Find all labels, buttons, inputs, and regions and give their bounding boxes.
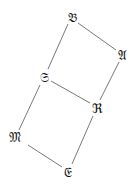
edge-s-m — [19, 85, 40, 130]
node-m: 𝔐 — [9, 131, 21, 144]
node-b: 𝔅 — [68, 11, 77, 24]
hasse-diagram-edges — [0, 0, 134, 188]
edge-m-e — [28, 145, 62, 167]
edge-a-r — [100, 62, 119, 100]
node-s: 𝔖 — [40, 71, 49, 84]
edge-s-r — [51, 81, 90, 103]
edge-b-a — [78, 23, 116, 50]
node-r: ℜ — [92, 102, 103, 115]
node-a: 𝔄 — [118, 49, 127, 62]
edge-b-s — [48, 24, 68, 69]
edge-r-e — [72, 116, 93, 164]
node-e: 𝔈 — [64, 166, 72, 179]
